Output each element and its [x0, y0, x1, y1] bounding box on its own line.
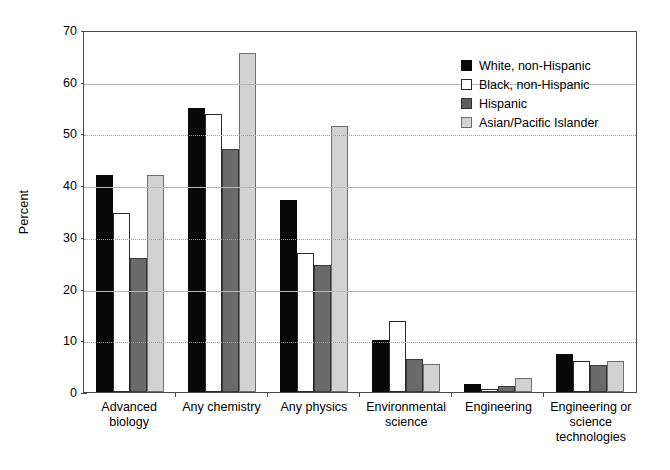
bar-group: [84, 32, 176, 392]
bar-group: [268, 32, 360, 392]
y-tick-label-70: 70: [47, 25, 77, 38]
bar-group: [176, 32, 268, 392]
bar[interactable]: [423, 364, 440, 392]
x-axis-label: Any physics: [268, 400, 360, 445]
gridline-30: [84, 239, 636, 240]
y-tick-mark-0: [81, 393, 87, 394]
bar[interactable]: [573, 361, 590, 392]
legend-label: White, non-Hispanic: [479, 59, 591, 73]
x-axis-tick: [267, 392, 268, 397]
bar[interactable]: [481, 389, 498, 392]
bar[interactable]: [314, 265, 331, 392]
bar[interactable]: [607, 361, 624, 392]
bar[interactable]: [372, 340, 389, 392]
x-axis-label: Engineering or science technologies: [545, 400, 637, 445]
y-tick-label-20: 20: [47, 284, 77, 297]
legend-swatch-icon: [461, 98, 472, 109]
bar[interactable]: [556, 354, 573, 392]
y-tick-label-10: 10: [47, 335, 77, 348]
x-axis-tick: [543, 392, 544, 397]
bar[interactable]: [239, 53, 256, 392]
legend-swatch-icon: [461, 79, 472, 90]
bar[interactable]: [331, 126, 348, 392]
y-tick-label-40: 40: [47, 180, 77, 193]
legend-label: Hispanic: [479, 97, 527, 111]
legend-item[interactable]: Asian/Pacific Islander: [461, 114, 599, 131]
bar[interactable]: [406, 359, 423, 392]
bar[interactable]: [280, 200, 297, 392]
y-axis-tick-labels: 706050403020100: [43, 31, 77, 393]
y-tick-label-0: 0: [47, 387, 77, 400]
x-axis-label: Any chemistry: [175, 400, 267, 445]
bar[interactable]: [515, 378, 532, 392]
y-tick-label-30: 30: [47, 232, 77, 245]
bar-chart: Percent 706050403020100 Advanced biology…: [0, 0, 670, 470]
x-axis-label: Advanced biology: [83, 400, 175, 445]
bar[interactable]: [130, 258, 147, 392]
bar[interactable]: [464, 384, 481, 392]
x-axis-label: Engineering: [452, 400, 544, 445]
gridline-50: [84, 135, 636, 136]
y-axis-title: Percent: [14, 32, 34, 392]
chart-legend: White, non-HispanicBlack, non-HispanicHi…: [461, 57, 599, 131]
y-tick-label-60: 60: [47, 77, 77, 90]
legend-item[interactable]: Black, non-Hispanic: [461, 76, 599, 93]
bar[interactable]: [389, 321, 406, 392]
gridline-20: [84, 291, 636, 292]
x-axis-label: Environmental science: [360, 400, 452, 445]
legend-swatch-icon: [461, 117, 472, 128]
bar[interactable]: [498, 386, 515, 392]
bar[interactable]: [96, 175, 113, 392]
legend-swatch-icon: [461, 60, 472, 71]
bar[interactable]: [297, 253, 314, 392]
legend-item[interactable]: White, non-Hispanic: [461, 57, 599, 74]
bar[interactable]: [147, 175, 164, 392]
bar[interactable]: [113, 213, 130, 392]
bar-group: [360, 32, 452, 392]
x-axis-tick: [359, 392, 360, 397]
bar[interactable]: [188, 108, 205, 392]
legend-label: Asian/Pacific Islander: [479, 116, 599, 130]
legend-item[interactable]: Hispanic: [461, 95, 599, 112]
legend-label: Black, non-Hispanic: [479, 78, 589, 92]
bar[interactable]: [222, 149, 239, 392]
x-axis-labels: Advanced biologyAny chemistryAny physics…: [83, 400, 637, 445]
bar[interactable]: [590, 365, 607, 392]
bar[interactable]: [205, 114, 222, 392]
gridline-10: [84, 342, 636, 343]
gridline-40: [84, 187, 636, 188]
x-axis-tick: [175, 392, 176, 397]
x-axis-tick: [451, 392, 452, 397]
y-tick-label-50: 50: [47, 128, 77, 141]
